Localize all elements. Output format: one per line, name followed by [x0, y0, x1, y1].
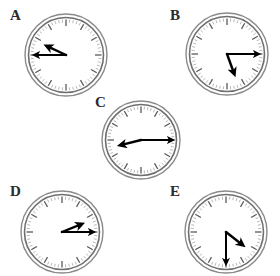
hour-ticks	[27, 197, 98, 268]
clock-b: B	[0, 0, 280, 276]
hour-ticks	[31, 20, 102, 91]
hour-hand	[226, 232, 243, 245]
clock-face-c	[98, 97, 184, 183]
clock-rim-inner	[25, 195, 100, 270]
clock-label-c: C	[95, 95, 106, 110]
clock-face-b	[182, 9, 272, 99]
clock-label-b: B	[170, 8, 180, 23]
clock-label-e: E	[170, 184, 180, 199]
minute-ticks	[31, 20, 102, 91]
center-pivot	[61, 231, 64, 234]
clock-rim-outer	[25, 14, 107, 96]
hour-hand	[62, 224, 81, 232]
clock-rim-outer	[185, 191, 267, 273]
clock-rim-outer	[21, 191, 103, 273]
clock-panel-figure: ABCDE	[0, 0, 280, 276]
clock-rim-inner	[190, 17, 265, 92]
hour-ticks	[191, 197, 262, 268]
clock-c: C	[0, 0, 280, 276]
clock-face-a	[21, 10, 111, 100]
hour-hand	[47, 46, 66, 55]
clock-rim-inner	[106, 105, 177, 176]
clock-label-d: D	[10, 184, 21, 199]
clock-rim-inner	[29, 18, 104, 93]
center-pivot	[65, 54, 68, 57]
clock-label-a: A	[10, 8, 21, 23]
minute-ticks	[27, 197, 98, 268]
clock-rim-inner	[189, 195, 264, 270]
hour-hand	[121, 140, 141, 145]
clock-face-d	[17, 187, 107, 276]
clock-rim-outer	[102, 101, 180, 179]
hour-hand	[227, 54, 234, 74]
center-pivot	[226, 53, 229, 56]
clock-a: A	[0, 0, 280, 276]
center-pivot	[140, 139, 143, 142]
hour-ticks	[192, 19, 263, 90]
minute-ticks	[191, 197, 262, 268]
clock-e: E	[0, 0, 280, 276]
clock-face-e	[181, 187, 271, 276]
clock-d: D	[0, 0, 280, 276]
center-pivot	[225, 231, 228, 234]
hour-ticks	[108, 107, 175, 174]
minute-ticks	[108, 107, 175, 174]
clock-rim-outer	[186, 13, 268, 95]
minute-ticks	[192, 19, 263, 90]
